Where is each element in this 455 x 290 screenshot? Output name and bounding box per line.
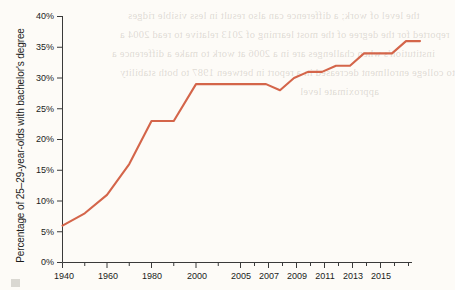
y-tick-label-25: 25% xyxy=(28,104,54,114)
y-tick-label-0: 0% xyxy=(28,257,54,267)
data-line-bachelors-degree xyxy=(63,41,421,226)
y-tick-label-30: 30% xyxy=(28,73,54,83)
y-tick-label-5: 5% xyxy=(28,227,54,237)
x-tick-label-2007: 2007 xyxy=(259,271,279,281)
x-axis-minor-ticks xyxy=(85,263,409,267)
y-tick-label-40: 40% xyxy=(28,11,54,21)
x-axis-major-ticks xyxy=(63,263,381,269)
x-tick-label-2000: 2000 xyxy=(187,271,207,281)
x-tick-label-2009: 2009 xyxy=(287,271,307,281)
x-tick-label-2011: 2011 xyxy=(315,271,334,281)
x-tick-label-2013: 2013 xyxy=(343,271,363,281)
x-tick-label-1960: 1960 xyxy=(98,271,118,281)
x-tick-label-2015: 2015 xyxy=(371,271,391,281)
y-tick-label-20: 20% xyxy=(28,134,54,144)
y-tick-label-35: 35% xyxy=(28,42,54,52)
x-tick-label-2005: 2005 xyxy=(231,271,251,281)
x-tick-label-1940: 1940 xyxy=(54,271,74,281)
y-tick-label-15: 15% xyxy=(28,165,54,175)
x-tick-label-1980: 1980 xyxy=(142,271,162,281)
scan-corner-mark xyxy=(11,279,20,287)
y-tick-label-10: 10% xyxy=(28,196,54,206)
